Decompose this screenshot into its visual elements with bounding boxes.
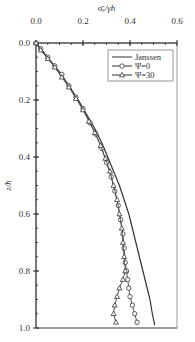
y-axis-title: z/h (3, 180, 13, 192)
y-tick-label: 0.4 (19, 152, 31, 162)
x-axis-title: σ̄ᵥ/γh (98, 3, 116, 13)
x-tick-label: 0.4 (124, 16, 136, 26)
y-tick-label: 0.6 (19, 209, 31, 219)
plot-frame (36, 43, 177, 328)
legend-label: Ψ=30 (135, 70, 155, 80)
chart: 0.00.20.40.60.00.20.40.60.81.0σ̄ᵥ/γhz/h … (0, 0, 195, 342)
x-tick-label: 0.0 (30, 16, 42, 26)
series--0 (34, 41, 139, 325)
y-tick-label: 0.0 (19, 38, 31, 48)
y-tick-label: 0.2 (19, 95, 30, 105)
x-tick-label: 0.6 (171, 16, 183, 26)
y-tick-label: 1.0 (19, 323, 31, 333)
x-tick-label: 0.2 (77, 16, 88, 26)
series-janssen (36, 43, 155, 325)
y-tick-label: 0.8 (19, 266, 31, 276)
series--30 (34, 40, 128, 324)
